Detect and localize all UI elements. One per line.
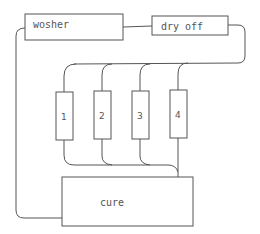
edge-station-2-collector (102, 139, 112, 165)
edge-station-1-collector (64, 140, 178, 172)
edge-washer-dryoff (123, 26, 152, 27)
process-flow-diagram: wosher dry off 1 2 3 4 cure (0, 0, 260, 234)
node-cure-label: cure (100, 197, 124, 208)
node-dry-off: dry off (152, 16, 228, 35)
node-station-2-label: 2 (99, 111, 105, 121)
edge-manifold-station-2 (102, 64, 112, 91)
node-station-1: 1 (56, 92, 73, 140)
edge-station-3-collector (140, 139, 150, 165)
node-station-2: 2 (94, 91, 111, 139)
node-station-4: 4 (170, 90, 187, 138)
edge-cure-washer (16, 28, 62, 218)
edge-manifold-station-4 (178, 63, 188, 90)
edge-manifold-station-1 (64, 64, 76, 92)
node-cure: cure (62, 177, 193, 226)
node-station-1-label: 1 (61, 112, 67, 122)
node-washer: wosher (25, 14, 123, 40)
node-dry-off-label: dry off (161, 21, 203, 32)
node-washer-label: wosher (33, 19, 69, 30)
node-station-3: 3 (132, 91, 149, 139)
node-station-3-label: 3 (137, 111, 143, 121)
edge-manifold-station-3 (140, 64, 150, 91)
node-station-4-label: 4 (175, 110, 181, 120)
